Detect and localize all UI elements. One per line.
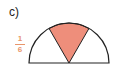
shaded-sector	[49, 23, 89, 63]
semicircle-diagram	[0, 0, 118, 73]
